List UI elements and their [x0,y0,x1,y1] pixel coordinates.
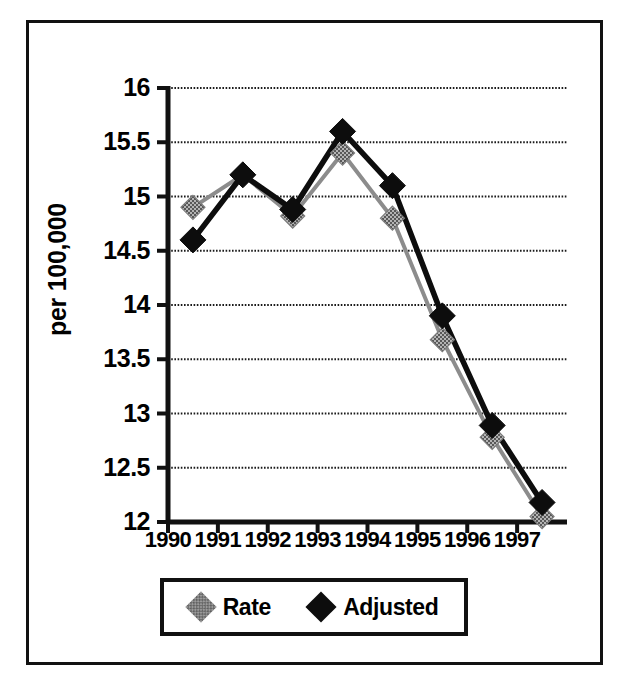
legend-item-adjusted: Adjusted [310,594,438,621]
legend-diamond-rate-icon [185,591,216,622]
y-axis-tick-label: 15 [92,184,150,209]
legend-label-rate: Rate [223,594,271,621]
x-axis-tick-labels: 19901991199219931994199519961997 [0,529,629,563]
chart-legend: Rate Adjusted [160,578,468,636]
y-axis-title: per 100,000 [43,180,72,360]
y-axis-tick-labels: 1212.51313.51414.51515.516 [92,0,150,687]
y-axis-tick-label: 14 [92,292,150,317]
y-axis-tick-label: 12.5 [92,455,150,480]
figure-root: per 100,000 1212.51313.51414.51515.516 1… [0,0,629,687]
legend-item-rate: Rate [190,594,271,621]
y-axis-tick-label: 14.5 [92,238,150,263]
x-axis-tick-label: 1997 [482,529,552,551]
y-axis-tick-label: 16 [92,75,150,100]
y-axis-tick-label: 13.5 [92,346,150,371]
legend-label-adjusted: Adjusted [343,594,438,621]
y-axis-tick-label: 15.5 [92,129,150,154]
y-axis-tick-label: 13 [92,401,150,426]
legend-diamond-adjusted-icon [306,591,337,622]
